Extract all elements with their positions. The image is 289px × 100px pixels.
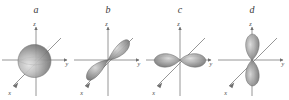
- axis-label-y-d: y: [281, 60, 285, 67]
- axis-label-x-a: x: [7, 89, 11, 96]
- orbital-shape-s: [18, 45, 51, 78]
- orbital-panel-a: a z: [0, 0, 72, 100]
- orbital-plot-b: z y x: [72, 18, 144, 100]
- panel-label-d: d: [216, 4, 288, 16]
- panel-label-a: a: [0, 4, 72, 16]
- axis-label-y-a: y: [65, 60, 69, 67]
- orbital-panel-c: c: [144, 0, 216, 100]
- orbital-plot-c: z y x: [144, 18, 216, 100]
- orbital-panel-d: d: [216, 0, 288, 100]
- axis-label-z-d: z: [248, 20, 252, 27]
- orbital-plot-a: z y x: [0, 18, 72, 100]
- axis-label-x-c: x: [151, 89, 155, 96]
- panel-label-c: c: [144, 4, 216, 16]
- axis-z-b: z: [104, 20, 108, 97]
- axis-label-x-b: x: [79, 89, 83, 96]
- orbital-panel-b: b: [72, 0, 144, 100]
- axis-label-z-b: z: [104, 20, 108, 27]
- orbital-figure: a z: [0, 0, 289, 100]
- axis-label-z-a: z: [32, 20, 36, 27]
- axis-label-y-c: y: [209, 60, 213, 67]
- axis-label-z-c: z: [176, 20, 180, 27]
- panel-label-b: b: [72, 4, 144, 16]
- axis-label-x-d: x: [223, 89, 227, 96]
- orbital-plot-d: z y x: [216, 18, 288, 100]
- axis-label-y-b: y: [137, 60, 141, 67]
